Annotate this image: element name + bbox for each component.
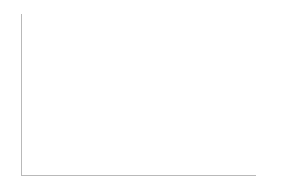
plot-area: [21, 14, 256, 176]
chart-container: [0, 0, 301, 195]
series-connector-lines: [21, 14, 256, 176]
x-axis-labels: [21, 177, 256, 189]
